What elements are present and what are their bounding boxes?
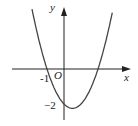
y-tick-label: −2 [44, 99, 56, 111]
y-axis-label: y [49, 1, 55, 13]
x-tick-label: -1 [40, 72, 49, 84]
origin-label: O [54, 69, 62, 81]
x-axis-label: x [123, 71, 129, 83]
parabola-diagram: y x O -1 −2 [0, 0, 138, 126]
parabola-curve [32, 9, 112, 108]
y-axis-arrow-icon [61, 7, 67, 16]
